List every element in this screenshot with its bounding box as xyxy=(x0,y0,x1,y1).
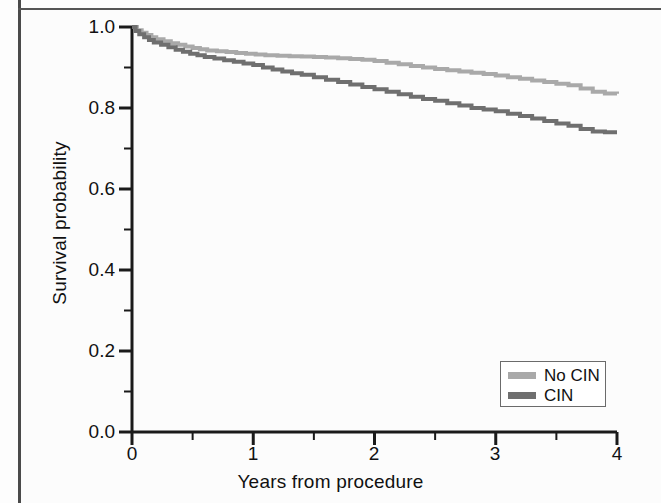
x-tick-label-3: 3 xyxy=(475,443,515,465)
legend: No CIN CIN xyxy=(500,361,606,407)
legend-label-no-cin: No CIN xyxy=(544,367,600,384)
series-group xyxy=(132,27,617,132)
x-axis-title: Years from procedure xyxy=(0,471,661,493)
legend-item-no-cin: No CIN xyxy=(508,365,600,386)
survival-curve-figure: 1.0 0.8 0.6 0.4 0.2 0.0 0 1 2 3 4 Years … xyxy=(0,0,661,503)
legend-label-cin: CIN xyxy=(544,387,573,404)
series-line-no-cin xyxy=(132,27,617,94)
x-tick-label-4: 4 xyxy=(597,443,637,465)
legend-swatch-no-cin xyxy=(508,372,536,379)
y-axis-title: Survival probability xyxy=(49,63,71,383)
legend-item-cin: CIN xyxy=(508,385,573,406)
y-tick-label-0-0: 0.0 xyxy=(55,421,115,443)
y-tick-label-1-0: 1.0 xyxy=(55,16,115,38)
x-tick-label-0: 0 xyxy=(112,443,152,465)
x-tick-label-2: 2 xyxy=(354,443,394,465)
legend-swatch-cin xyxy=(508,392,536,399)
x-tick-label-1: 1 xyxy=(233,443,273,465)
